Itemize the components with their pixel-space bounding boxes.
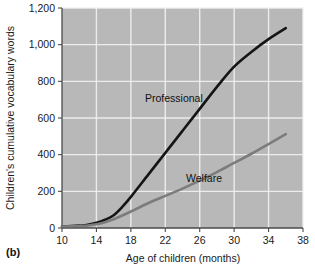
x-tick-label-38: 38 (297, 234, 309, 246)
y-tick-label-600: 600 (37, 112, 55, 124)
vocabulary-growth-chart: 02004006008001,0001,200 1014182226303438… (0, 0, 315, 270)
figure-panel: 02004006008001,0001,200 1014182226303438… (0, 0, 315, 270)
y-axis-ticks: 02004006008001,0001,200 (29, 2, 62, 234)
x-tick-label-34: 34 (263, 234, 275, 246)
x-tick-label-14: 14 (91, 234, 103, 246)
y-tick-label-0: 0 (49, 222, 55, 234)
panel-label: (b) (6, 246, 20, 258)
x-tick-label-10: 10 (56, 234, 68, 246)
x-axis-title: Age of children (months) (126, 252, 240, 264)
x-axis-ticks: 1014182226303438 (56, 228, 309, 246)
x-tick-label-22: 22 (159, 234, 171, 246)
series-label-professional: Professional (145, 92, 203, 104)
x-tick-label-18: 18 (125, 234, 137, 246)
y-tick-label-1000: 1,000 (29, 38, 55, 50)
series-label-welfare: Welfare (186, 172, 222, 184)
x-tick-label-26: 26 (194, 234, 206, 246)
y-tick-label-200: 200 (37, 185, 55, 197)
y-axis-title: Children's cumulative vocabulary words (4, 26, 16, 210)
y-tick-label-400: 400 (37, 148, 55, 160)
y-tick-label-1200: 1,200 (29, 2, 55, 14)
x-tick-label-30: 30 (228, 234, 240, 246)
y-tick-label-800: 800 (37, 75, 55, 87)
